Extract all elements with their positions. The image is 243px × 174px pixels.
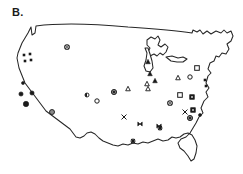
us-map-svg: [0, 0, 243, 174]
map-marker-filled-circle-large: [23, 101, 28, 106]
distribution-map-figure: B.: [0, 0, 243, 174]
us-outline-path: [17, 24, 233, 161]
map-marker-filled-circle-medium: [19, 92, 23, 96]
